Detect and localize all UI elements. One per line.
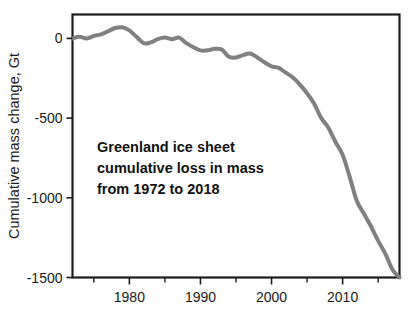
y-tick-label-1: -500: [34, 110, 62, 126]
annotation-line-2: from 1972 to 2018: [97, 181, 220, 197]
greenland-mass-change-figure: 1980199020002010 0-500-1000-1500 Cumulat…: [0, 0, 417, 312]
x-tick-label-2: 2000: [256, 289, 287, 305]
y-tick-label-0: 0: [55, 30, 63, 46]
annotation-line-0: Greenland ice sheet: [97, 139, 235, 155]
y-tick-label-3: -1500: [27, 270, 63, 286]
y-tick-label-2: -1000: [27, 190, 63, 206]
y-axis-title: Cumulative mass change, Gt: [6, 53, 22, 239]
y-axis-title-text: Cumulative mass change, Gt: [6, 53, 22, 239]
annotation-line-1: cumulative loss in mass: [97, 160, 264, 176]
line-chart: 1980199020002010 0-500-1000-1500 Cumulat…: [0, 0, 417, 312]
x-tick-label-3: 2010: [327, 289, 358, 305]
x-tick-label-0: 1980: [114, 289, 145, 305]
x-tick-label-1: 1990: [185, 289, 216, 305]
